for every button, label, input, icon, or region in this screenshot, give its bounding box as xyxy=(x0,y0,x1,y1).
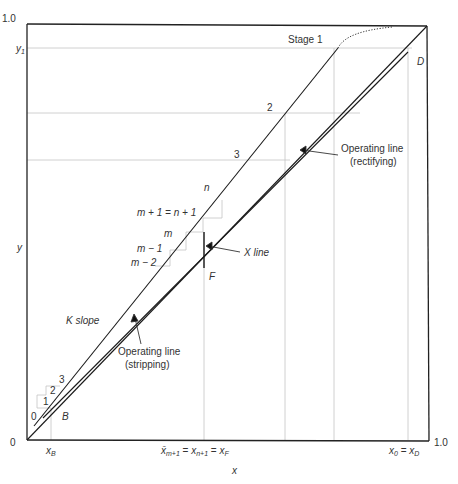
x-axis-label: x xyxy=(231,465,238,476)
bottom-stage-3-label: 3 xyxy=(59,374,65,385)
xline-arrow-shaft xyxy=(208,246,240,252)
xF-label: x̄m+1 = xn+1 = xF xyxy=(160,445,230,457)
stage-3-label: 3 xyxy=(234,149,240,160)
stage-m-minus-1-label: m − 1 xyxy=(137,243,162,254)
y-axis-label: y xyxy=(16,242,23,253)
distillation-diagram: 1.0 y1 y 0 1.0 x xB x̄m+1 = xn+1 = xF x0… xyxy=(0,0,458,484)
rectifying-arrow-head xyxy=(300,146,306,154)
stripping-arrow-shaft xyxy=(135,318,141,344)
stage-m1-n1-label: m + 1 = n + 1 xyxy=(137,207,196,218)
k-slope-line xyxy=(34,48,338,426)
stage-1-label: Stage 1 xyxy=(288,34,323,45)
x-max-label: 1.0 xyxy=(434,437,448,448)
op-line-stripping-label-2: (stripping) xyxy=(125,359,169,370)
operating-line-upper xyxy=(43,52,408,418)
x-axis xyxy=(27,440,429,441)
xB-label: xB xyxy=(45,445,56,457)
right-axis xyxy=(427,26,429,441)
bottom-stage-2-label: 2 xyxy=(50,385,56,396)
point-F-label: F xyxy=(209,271,216,282)
main-lines xyxy=(27,26,427,440)
point-D-label: D xyxy=(417,56,424,67)
x-line-label: X line xyxy=(243,247,269,258)
equilibrium-curve-dotted xyxy=(338,27,392,48)
k-slope-label: K slope xyxy=(66,315,100,326)
stripping-arrow-head xyxy=(131,314,138,322)
op-line-stripping-label-1: Operating line xyxy=(118,346,181,357)
op-line-rectifying-label-2: (rectifying) xyxy=(350,156,397,167)
stage-m-minus-2-label: m − 2 xyxy=(131,257,157,268)
guide-lines xyxy=(27,48,412,440)
y-max-label: 1.0 xyxy=(2,13,16,24)
stage-m-label: m xyxy=(164,228,172,239)
xD-label: x0 = xD xyxy=(388,445,419,457)
top-axis xyxy=(27,24,427,26)
bottom-stage-0-label: 0 xyxy=(31,411,37,422)
bottom-stage-1-label: 1 xyxy=(43,396,49,407)
op-line-rectifying-label-1: Operating line xyxy=(341,143,404,154)
y1-label: y1 xyxy=(15,43,25,55)
stage-2-label: 2 xyxy=(267,102,273,113)
stage-n-label: n xyxy=(204,182,210,193)
xline-arrow-head xyxy=(206,242,212,250)
origin-label: 0 xyxy=(10,437,16,448)
point-B-label: B xyxy=(62,411,69,422)
